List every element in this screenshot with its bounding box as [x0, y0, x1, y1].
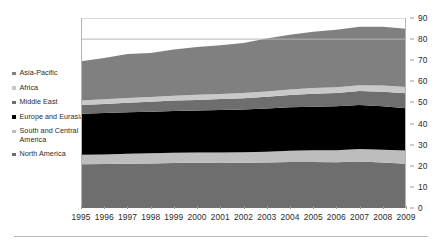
- x-tick-label: 2007: [350, 212, 369, 222]
- y-tick-mark: [410, 165, 414, 166]
- stacked-area-svg: [81, 18, 406, 208]
- legend-item-label: Africa: [20, 84, 39, 93]
- x-tick-label: 1997: [118, 212, 137, 222]
- legend-swatch-icon: [12, 101, 16, 105]
- y-tick-mark: [410, 208, 414, 209]
- x-tick-mark: [290, 206, 291, 209]
- y-tick-label: 90: [418, 13, 428, 23]
- x-tick-label: 2000: [188, 212, 207, 222]
- y-tick-label: 80: [418, 34, 428, 44]
- legend-swatch-icon: [12, 86, 16, 90]
- x-tick-mark: [336, 206, 337, 209]
- y-tick-mark: [410, 102, 414, 103]
- bottom-divider: [14, 236, 428, 237]
- x-tick-mark: [360, 206, 361, 209]
- x-tick-label: 2002: [234, 212, 253, 222]
- x-tick-label: 2005: [304, 212, 323, 222]
- x-tick-label: 1998: [141, 212, 160, 222]
- y-tick-label: 20: [418, 161, 428, 171]
- x-tick-mark: [174, 206, 175, 209]
- y-tick-label: 0: [418, 203, 423, 213]
- x-tick-mark: [197, 206, 198, 209]
- x-tick-label: 2004: [280, 212, 299, 222]
- legend-swatch-icon: [12, 115, 16, 119]
- x-tick-label: 1995: [71, 212, 90, 222]
- x-axis: 1995199619971998199920002001200220032004…: [81, 209, 406, 223]
- x-tick-label: 1996: [95, 212, 114, 222]
- x-tick-label: 1999: [164, 212, 183, 222]
- legend-swatch-icon: [12, 130, 16, 134]
- legend-item: Africa: [12, 84, 90, 93]
- chart-legend: Asia-PacificAfricaMiddle EastEurope and …: [12, 69, 90, 165]
- x-tick-mark: [104, 206, 105, 209]
- legend-item-label: South and Central America: [20, 127, 79, 144]
- y-tick-label: 30: [418, 140, 428, 150]
- y-tick-label: 60: [418, 76, 428, 86]
- y-tick-label: 40: [418, 119, 428, 129]
- y-tick-mark: [410, 144, 414, 145]
- legend-item: Asia-Pacific: [12, 69, 90, 78]
- x-tick-label: 2006: [327, 212, 346, 222]
- x-tick-label: 2001: [211, 212, 230, 222]
- x-tick-mark: [220, 206, 221, 209]
- x-tick-mark: [151, 206, 152, 209]
- legend-swatch-icon: [12, 72, 16, 76]
- y-tick-mark: [410, 60, 414, 61]
- y-tick-label: 10: [418, 182, 428, 192]
- x-tick-mark: [313, 206, 314, 209]
- x-tick-mark: [406, 206, 407, 209]
- legend-swatch-icon: [12, 153, 16, 157]
- legend-item: North America: [12, 150, 90, 159]
- x-tick-mark: [383, 206, 384, 209]
- legend-item-label: Europe and Eurasia: [20, 113, 84, 122]
- x-tick-mark: [127, 206, 128, 209]
- area-series: [81, 105, 406, 155]
- legend-item: Middle East: [12, 98, 90, 107]
- y-tick-label: 70: [418, 55, 428, 65]
- area-series: [81, 162, 406, 208]
- x-tick-mark: [267, 206, 268, 209]
- x-tick-label: 2008: [373, 212, 392, 222]
- y-tick-mark: [410, 123, 414, 124]
- legend-item-label: Asia-Pacific: [20, 69, 58, 78]
- legend-item: South and Central America: [12, 127, 90, 144]
- chart-figure: Asia-PacificAfricaMiddle EastEurope and …: [0, 0, 442, 243]
- legend-item-label: North America: [20, 150, 66, 159]
- y-tick-mark: [410, 186, 414, 187]
- y-tick-mark: [410, 18, 414, 19]
- legend-item-label: Middle East: [20, 98, 58, 107]
- legend-item: Europe and Eurasia: [12, 113, 90, 122]
- y-tick-mark: [410, 39, 414, 40]
- y-tick-mark: [410, 81, 414, 82]
- y-tick-label: 50: [418, 97, 428, 107]
- x-tick-mark: [81, 206, 82, 209]
- y-axis: 0102030405060708090: [410, 18, 440, 208]
- x-tick-mark: [244, 206, 245, 209]
- x-tick-label: 2003: [257, 212, 276, 222]
- x-tick-label: 2009: [396, 212, 415, 222]
- plot-area: [81, 18, 406, 208]
